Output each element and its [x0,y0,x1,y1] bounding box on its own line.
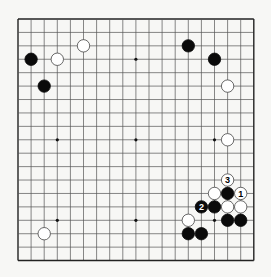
go-board: 312 [0,0,271,277]
white-stone: 1 [235,187,247,199]
star-point [134,58,137,61]
white-stone [208,187,220,199]
white-stone [51,53,63,65]
white-stone [182,214,194,226]
move-number: 2 [199,202,204,212]
white-stone [221,134,233,146]
star-point [213,138,216,141]
black-stone [208,201,220,213]
star-point [134,138,137,141]
white-stone: 3 [221,174,233,186]
black-stone [221,187,233,199]
star-point [56,219,59,222]
white-stone [221,80,233,92]
white-stone [221,201,233,213]
star-point [134,219,137,222]
black-stone: 2 [195,201,207,213]
move-number: 1 [238,189,243,199]
black-stone [182,228,194,240]
star-point [56,138,59,141]
white-stone [235,201,247,213]
white-stone [77,40,89,52]
white-stone [38,228,50,240]
black-stone [221,214,233,226]
black-stone [195,228,207,240]
black-stone [208,53,220,65]
star-point [213,219,216,222]
black-stone [25,53,37,65]
black-stone [235,214,247,226]
black-stone [38,80,50,92]
move-number: 3 [225,175,230,185]
black-stone [182,40,194,52]
